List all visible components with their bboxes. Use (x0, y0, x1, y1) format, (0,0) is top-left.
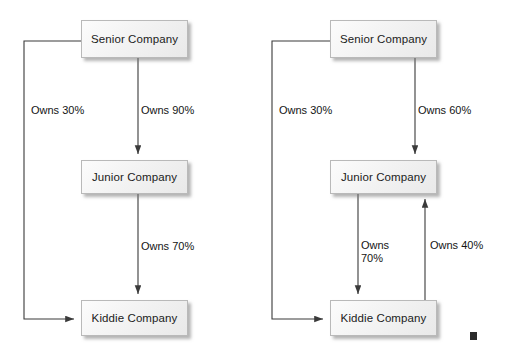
node-label: Junior Company (92, 171, 177, 183)
edge-label-right-senior-kiddie: Owns 30% (279, 104, 332, 117)
node-right-kiddie[interactable]: Kiddie Company (330, 300, 437, 336)
diagram-canvas: Senior Company Junior Company Kiddie Com… (0, 0, 508, 362)
edge-label-left-senior-kiddie: Owns 30% (31, 104, 84, 117)
node-left-kiddie[interactable]: Kiddie Company (81, 300, 188, 336)
edge-label-left-junior-kiddie: Owns 70% (141, 240, 194, 253)
edge-label-right-junior-kiddie: Owns 70% (361, 239, 389, 265)
node-label: Kiddie Company (341, 312, 427, 324)
node-right-junior[interactable]: Junior Company (330, 160, 437, 194)
end-marker-square (470, 332, 477, 340)
node-label: Senior Company (91, 33, 178, 45)
node-right-senior[interactable]: Senior Company (330, 20, 437, 58)
node-label: Kiddie Company (92, 312, 178, 324)
edge-left-senior-kiddie (24, 41, 81, 319)
edge-label-right-senior-junior: Owns 60% (418, 104, 471, 117)
node-label: Junior Company (341, 171, 426, 183)
node-left-junior[interactable]: Junior Company (81, 160, 188, 194)
edge-label-left-senior-junior: Owns 90% (141, 104, 194, 117)
edge-label-right-kiddie-junior: Owns 40% (430, 239, 483, 252)
node-label: Senior Company (340, 33, 427, 45)
node-left-senior[interactable]: Senior Company (81, 20, 188, 58)
edge-right-senior-kiddie (272, 41, 330, 319)
